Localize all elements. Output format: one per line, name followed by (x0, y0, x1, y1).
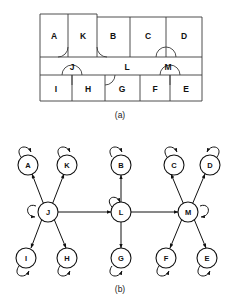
edge-M-E (194, 219, 206, 248)
edge-J-A (32, 174, 44, 205)
node-B[interactable]: B (111, 155, 131, 175)
edge-M-C (171, 174, 184, 205)
graph-panel: A K B C D J (16, 147, 220, 294)
caption-panel-b: (b) (115, 284, 126, 294)
node-label-G: G (118, 254, 124, 263)
node-label-J: J (46, 208, 50, 217)
node-label-L: L (119, 208, 124, 217)
node-label-I: I (25, 254, 27, 263)
node-F[interactable]: F (156, 248, 176, 268)
node-A[interactable]: A (18, 155, 38, 175)
room-label-I: I (55, 84, 57, 94)
floorplan-panel: A K B C D J L M I H G F E (a) (40, 14, 202, 120)
node-label-K: K (64, 161, 70, 170)
node-L[interactable]: L (111, 202, 131, 222)
node-label-H: H (64, 254, 69, 263)
self-loop-M (200, 205, 208, 217)
room-label-G: G (119, 84, 126, 94)
node-label-M: M (185, 208, 191, 217)
node-G[interactable]: G (111, 248, 131, 268)
figure-root: A K B C D J L M I H G F E (a) (0, 0, 241, 305)
room-label-J: J (70, 62, 75, 72)
room-label-B: B (110, 31, 116, 41)
node-label-F: F (164, 254, 169, 263)
room-label-A: A (51, 31, 57, 41)
node-label-C: C (171, 161, 177, 170)
edge-M-D (192, 174, 205, 205)
node-D[interactable]: D (200, 155, 220, 175)
node-J[interactable]: J (38, 202, 58, 222)
caption-panel-a: (a) (115, 110, 126, 120)
node-H[interactable]: H (57, 248, 77, 268)
edge-J-I (31, 219, 42, 248)
node-label-B: B (118, 161, 124, 170)
room-label-F: F (152, 84, 157, 94)
floorplan-doors (58, 47, 180, 85)
room-label-K: K (80, 31, 87, 41)
room-label-H: H (85, 84, 91, 94)
node-label-A: A (25, 161, 31, 170)
self-loop-J (28, 205, 36, 217)
room-label-D: D (181, 31, 187, 41)
node-I[interactable]: I (16, 248, 36, 268)
edge-M-F (170, 219, 182, 248)
node-C[interactable]: C (164, 155, 184, 175)
room-label-L: L (124, 62, 129, 72)
edge-J-K (52, 174, 64, 205)
node-M[interactable]: M (178, 202, 198, 222)
room-label-C: C (145, 31, 151, 41)
graph-nodes: A K B C D J (16, 155, 220, 268)
node-K[interactable]: K (57, 155, 77, 175)
room-label-E: E (183, 84, 189, 94)
node-label-D: D (207, 161, 213, 170)
edge-J-H (54, 219, 66, 248)
node-E[interactable]: E (197, 248, 217, 268)
room-label-M: M (164, 62, 171, 72)
node-label-E: E (204, 254, 209, 263)
